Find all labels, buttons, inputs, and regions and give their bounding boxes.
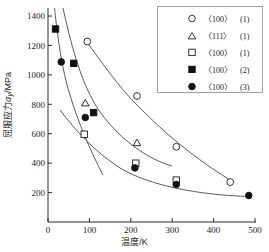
legend-orientation-label: 〈100〉 xyxy=(204,15,232,24)
legend-source-label: (1) xyxy=(240,49,250,58)
y-axis-title-prefix: 屈服应力 xyxy=(3,102,13,138)
legend-source-label: (1) xyxy=(240,15,250,24)
datapoint-filled-square xyxy=(71,60,77,66)
datapoint-filled-square xyxy=(90,109,96,115)
datapoint-open-square xyxy=(81,131,87,137)
datapoint-filled-circle xyxy=(173,181,180,188)
datapoint-open-circle xyxy=(173,143,180,150)
x-ticklabel-300: 300 xyxy=(165,225,179,235)
series-open-square-100-1 xyxy=(81,131,180,183)
open-square-icon xyxy=(189,49,195,55)
datapoint-open-circle xyxy=(227,179,234,186)
y-ticklabel-200: 200 xyxy=(32,188,46,198)
datapoint-open-circle xyxy=(84,38,91,45)
datapoint-filled-circle xyxy=(58,59,65,66)
datapoint-filled-circle xyxy=(246,192,253,199)
legend-orientation-label: 〈100〉 xyxy=(204,49,232,58)
y-ticklabel-1000: 1000 xyxy=(27,70,46,80)
series-open-triangle-111-1 xyxy=(82,100,141,146)
legend-source-label: (2) xyxy=(240,66,250,75)
x-ticklabel-200: 200 xyxy=(124,225,138,235)
y-ticklabel-600: 600 xyxy=(32,129,46,139)
y-ticklabel-1200: 1200 xyxy=(27,41,46,51)
plot-svg: 1400 1200 1000 800 600 400 200 0 100 200… xyxy=(0,0,269,252)
filled-circle-icon xyxy=(189,83,196,90)
curve-open-triangle-111-1 xyxy=(63,8,172,166)
x-axis-title: 温度/K xyxy=(0,235,269,248)
legend-source-label: (3) xyxy=(240,83,250,92)
y-axis-title-subscript: y xyxy=(6,93,13,97)
yield-stress-vs-temperature-chart: 1400 1200 1000 800 600 400 200 0 100 200… xyxy=(0,0,269,252)
x-axis-tick-labels: 0 100 200 300 400 500 xyxy=(46,225,263,235)
datapoint-filled-square xyxy=(52,26,58,32)
datapoint-filled-circle xyxy=(132,165,139,172)
x-ticklabel-400: 400 xyxy=(207,225,221,235)
y-ticklabel-400: 400 xyxy=(32,158,46,168)
y-axis-tick-labels: 1400 1200 1000 800 600 400 200 xyxy=(27,11,46,198)
y-ticklabel-1400: 1400 xyxy=(27,11,46,21)
y-axis-ticks xyxy=(48,16,52,193)
x-ticklabel-500: 500 xyxy=(248,225,262,235)
open-circle-icon xyxy=(189,15,196,22)
x-ticklabel-0: 0 xyxy=(46,225,51,235)
legend-orientation-label: 〈111〉 xyxy=(204,32,231,41)
x-axis-ticks xyxy=(48,218,255,222)
y-ticklabel-800: 800 xyxy=(32,100,46,110)
filled-square-icon xyxy=(189,66,195,72)
x-ticklabel-100: 100 xyxy=(83,225,97,235)
y-axis-title-symbol: σ xyxy=(3,97,13,102)
legend-orientation-label: 〈100〉 xyxy=(204,66,232,75)
datapoint-open-circle xyxy=(134,93,141,100)
legend-orientation-label: 〈100〉 xyxy=(204,83,232,92)
legend-source-label: (1) xyxy=(240,32,250,41)
datapoint-filled-circle xyxy=(82,114,89,121)
curve-filled-circle-100-3 xyxy=(60,110,249,197)
legend: 〈100〉 (1) 〈111〉 (1) 〈100〉 (1) 〈100〉 (2) xyxy=(158,7,263,93)
datapoint-open-triangle xyxy=(133,139,141,145)
y-axis-title-suffix: /MPa xyxy=(3,72,13,93)
y-axis-title: 屈服应力σy/MPa xyxy=(0,0,13,60)
datapoint-open-triangle xyxy=(82,100,90,106)
